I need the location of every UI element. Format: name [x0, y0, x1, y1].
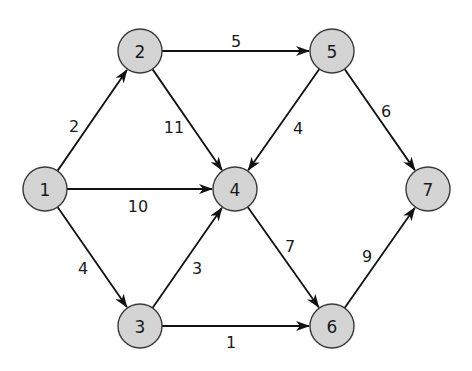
- node-label: 6: [327, 317, 338, 337]
- edge-weight-label: 4: [293, 119, 303, 138]
- node-7: 7: [406, 167, 450, 211]
- edge-weight-label: 3: [192, 259, 202, 278]
- node-label: 2: [135, 42, 146, 62]
- edge-1-to-2: [57, 70, 126, 171]
- edge-weight-label: 2: [69, 117, 79, 136]
- edge-weight-label: 6: [381, 102, 391, 121]
- edge-weight-label: 11: [164, 118, 184, 137]
- edge-5-to-4: [248, 69, 319, 170]
- node-5: 5: [310, 29, 354, 73]
- node-2: 2: [118, 29, 162, 73]
- edge-weight-label: 10: [128, 197, 148, 216]
- node-label: 5: [327, 42, 338, 62]
- edge-3-to-4: [153, 208, 222, 308]
- node-3: 3: [118, 304, 162, 348]
- directed-graph: 2104511314679 1234567: [0, 0, 472, 371]
- node-label: 3: [135, 317, 146, 337]
- edge-5-to-7: [345, 69, 415, 170]
- edge-weight-label: 5: [231, 32, 241, 51]
- edge-1-to-3: [58, 207, 127, 307]
- node-6: 6: [310, 304, 354, 348]
- edge-weight-label: 1: [226, 333, 236, 352]
- edge-weight-label: 4: [78, 259, 88, 278]
- node-1: 1: [23, 167, 67, 211]
- node-4: 4: [213, 167, 257, 211]
- node-label: 4: [230, 180, 241, 200]
- edge-6-to-7: [345, 208, 415, 308]
- node-label: 7: [423, 180, 434, 200]
- edge-weight-label: 7: [285, 237, 295, 256]
- node-label: 1: [40, 180, 51, 200]
- edge-4-to-6: [248, 207, 319, 307]
- edge-weight-label: 9: [362, 247, 372, 266]
